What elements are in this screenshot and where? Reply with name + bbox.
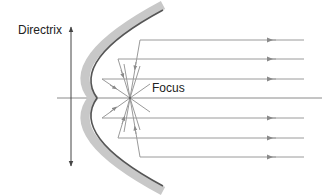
directrix-label: Directrix — [18, 23, 62, 37]
focus-label: Focus — [152, 81, 185, 95]
focus-point — [129, 97, 132, 100]
